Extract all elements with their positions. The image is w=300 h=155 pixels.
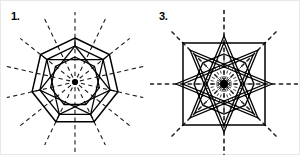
hub-ray — [205, 65, 221, 81]
heptagon-symmetry-diagram — [1, 1, 151, 155]
figure-panel-1: 1. — [1, 1, 151, 155]
figure-sheet: 1. 3. — [0, 0, 300, 155]
center-point — [72, 79, 78, 85]
spoke — [32, 90, 40, 92]
spoke — [56, 114, 59, 121]
spoke — [91, 114, 94, 121]
center-point — [220, 80, 228, 88]
figure-panel-3: 3. — [149, 1, 299, 155]
octagram-symmetry-diagram — [149, 1, 299, 155]
hub-ray — [228, 65, 244, 81]
spoke — [103, 55, 109, 60]
spoke — [41, 55, 47, 60]
spoke — [110, 90, 118, 92]
hub-ray — [205, 88, 221, 104]
hub-ray — [228, 88, 244, 104]
